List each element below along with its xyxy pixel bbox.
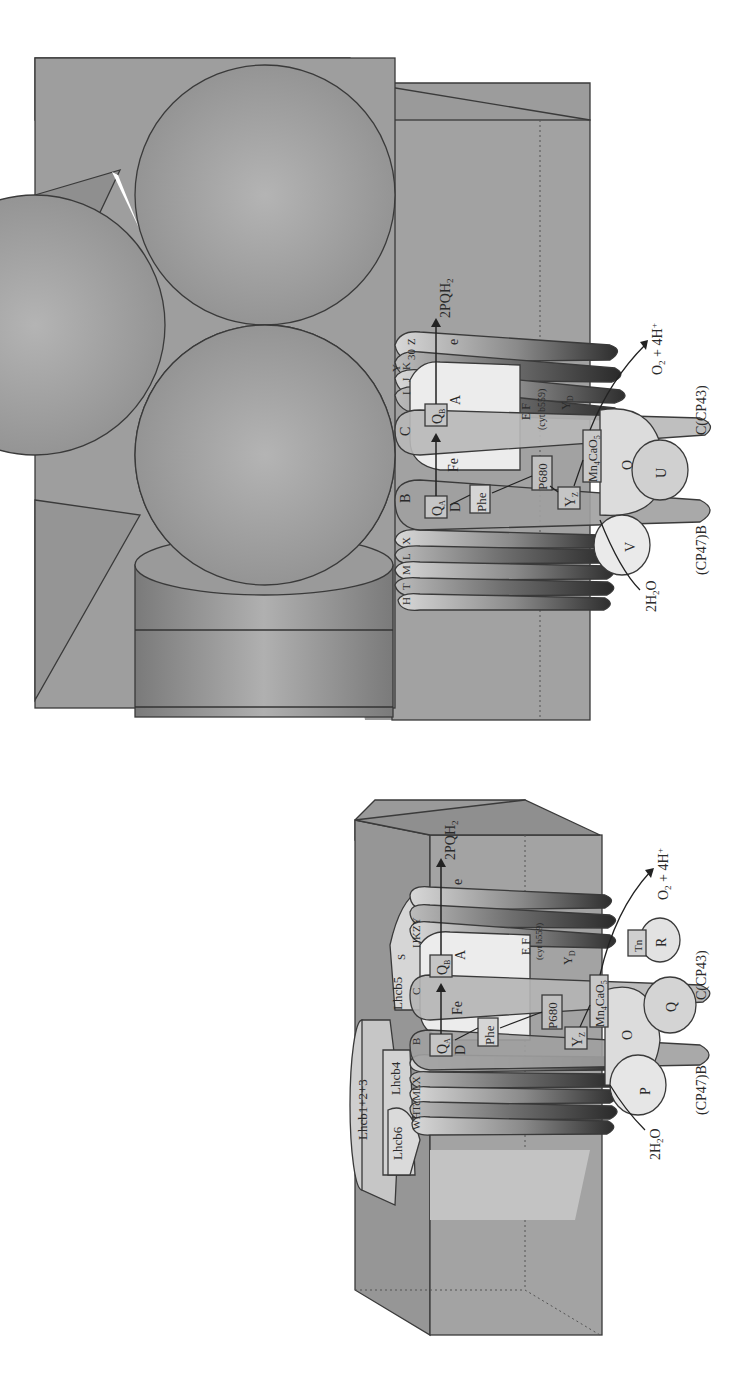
label-mn-upper: Mn4CaO5 (586, 435, 602, 482)
label-cytb559-upper: E F (519, 403, 533, 420)
label-subunit-x-upper: X (400, 537, 412, 545)
label-q-lower: Q (664, 1002, 679, 1012)
label-d1-lower: A (453, 949, 468, 960)
label-lhcb5: Lhcb5 (390, 977, 405, 1010)
label-subunit-j-upper: J (400, 377, 412, 382)
label-subunit-i-upper: I (400, 391, 412, 395)
label-cytb559-lower: E F (519, 938, 533, 955)
label-o-upper: O (620, 460, 635, 470)
label-product-upper: 2PQH2 (438, 278, 455, 318)
label-subunits-ijkzy-lower: IJKZY (410, 917, 422, 948)
label-cp43-lower: C(CP43) (694, 950, 710, 1000)
label-d2-upper: D (448, 502, 463, 512)
label-fe-upper: Fe (446, 458, 461, 472)
label-phe-lower: Phe (482, 1025, 497, 1045)
label-o-lower: O (620, 1030, 635, 1040)
label-lhcb123: Lhcb1+2+3 (355, 1079, 370, 1140)
label-oxygen-lower: O2 + 4H+ (655, 848, 673, 900)
label-electron-lower: e (450, 879, 465, 885)
label-water-lower: 2H2O (648, 1128, 665, 1160)
label-subunit-30-upper: 30 (405, 349, 417, 361)
label-subunit-m-upper: M (400, 565, 412, 575)
label-cytb559-sub-upper: (cyt b559) (536, 389, 548, 430)
figure-canvas: 2PQH2 e O2 + 4H+ C(CP43) (CP47)B 2H2O QB… (0, 0, 744, 1374)
label-subunit-l-upper: L (400, 553, 412, 560)
membrane-light-panel (430, 1150, 590, 1220)
label-mn-lower: Mn4CaO5 (593, 980, 609, 1027)
label-subunit-z-upper: Z (405, 338, 417, 345)
label-phe-upper: Phe (474, 492, 489, 512)
label-subunit-c-lower: C (410, 988, 422, 995)
sphere-top (135, 65, 395, 325)
label-cp47-lower: (CP47)B (694, 1065, 710, 1115)
label-lhcb4: Lhcb4 (388, 1061, 403, 1095)
label-cp47-upper: (CP47)B (694, 525, 710, 575)
label-d1-upper: A (448, 394, 463, 405)
label-subunit-h-upper: H (400, 597, 412, 605)
label-electron-upper: e (446, 339, 461, 345)
label-v-upper: V (623, 542, 638, 552)
label-p680-lower: P680 (545, 1002, 560, 1029)
label-subunit-y-upper: Y (390, 364, 402, 372)
label-subunit-b-upper: B (398, 494, 413, 503)
extrinsic-p-lower (610, 1055, 666, 1115)
label-product-lower: 2PQH2 (443, 820, 460, 860)
label-subunit-c-upper: C (398, 427, 413, 436)
label-tn-lower: Tn (632, 939, 644, 952)
label-u-upper: U (654, 468, 669, 478)
label-lhcb6: Lhcb6 (390, 1126, 405, 1160)
label-d2-lower: D (453, 1045, 468, 1055)
label-subunit-b-lower: B (410, 1038, 422, 1045)
lower-panel: 2PQH2 e O2 + 4H+ C(CP43) (CP47)B 2H2O QB… (350, 800, 710, 1335)
label-water-upper: 2H2O (644, 580, 661, 612)
label-oxygen-upper: O2 + 4H+ (649, 323, 667, 375)
upper-panel: 2PQH2 e O2 + 4H+ C(CP43) (CP47)B 2H2O QB… (0, 58, 710, 720)
label-cytb559-sub-lower: (cyt b559) (534, 923, 544, 960)
helix-bundle-upper-left (395, 530, 614, 611)
label-r-lower: R (654, 937, 669, 947)
label-subunit-s-lower: S (395, 954, 407, 960)
label-cp43-upper: C(CP43) (694, 385, 710, 435)
label-fe-lower: Fe (450, 1001, 465, 1015)
label-p680-upper: P680 (535, 463, 550, 490)
label-subunit-t-upper: T (400, 583, 412, 590)
label-p-lower: P (638, 1087, 653, 1095)
label-subunits-whtcmlx-lower: WHTcMLX (410, 1076, 422, 1130)
